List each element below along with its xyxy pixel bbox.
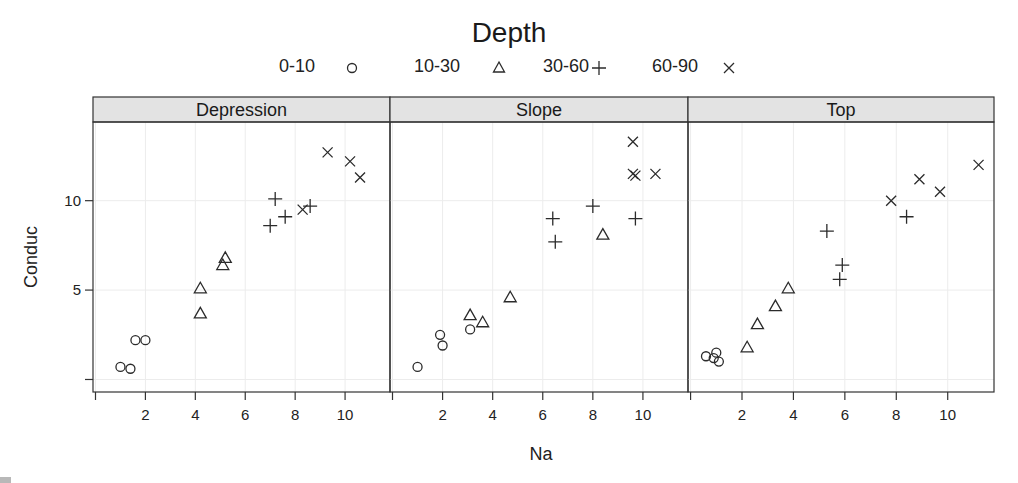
- triangle-point: [477, 316, 489, 327]
- plus-point: [820, 224, 834, 238]
- x-tick-label: 4: [191, 406, 199, 423]
- strip-label: Slope: [516, 100, 562, 120]
- y-tick-label: 5: [73, 281, 81, 298]
- cross-point: [935, 187, 945, 197]
- scatter-plot: Depression246810Slope246810Top246810510N…: [0, 0, 1018, 483]
- plus-point: [546, 212, 560, 226]
- strip-label: Top: [826, 100, 855, 120]
- circle-point: [116, 362, 125, 371]
- x-tick-label: 10: [635, 406, 652, 423]
- x-tick-label: 6: [539, 406, 547, 423]
- x-tick-label: 8: [291, 406, 299, 423]
- x-axis-label: Na: [529, 444, 553, 464]
- triangle-point: [769, 300, 781, 311]
- circle-point: [126, 364, 135, 373]
- circle-point: [131, 336, 140, 345]
- triangle-point: [194, 282, 206, 293]
- panel-slope: Slope246810: [390, 97, 688, 423]
- triangle-point: [597, 229, 609, 240]
- x-tick-label: 10: [939, 406, 956, 423]
- triangle-point: [782, 282, 794, 293]
- triangle-point: [217, 259, 229, 270]
- plus-point: [278, 210, 292, 224]
- plus-point: [263, 219, 277, 233]
- cross-point: [974, 160, 984, 170]
- x-tick-label: 10: [337, 406, 354, 423]
- panel-top: Top246810: [688, 97, 994, 423]
- circle-point: [712, 348, 721, 357]
- y-axis-label: Conduc: [21, 226, 41, 288]
- plus-point: [268, 192, 282, 206]
- x-tick-label: 8: [892, 406, 900, 423]
- plus-point: [835, 258, 849, 272]
- cross-point: [345, 156, 355, 166]
- triangle-point: [741, 341, 753, 352]
- x-tick-label: 2: [738, 406, 746, 423]
- plus-point: [548, 235, 562, 249]
- circle-point: [436, 330, 445, 339]
- x-tick-label: 4: [489, 406, 497, 423]
- cross-point: [323, 147, 333, 157]
- x-tick-label: 2: [141, 406, 149, 423]
- triangle-point: [464, 309, 476, 320]
- cross-point: [298, 205, 308, 215]
- x-tick-label: 6: [241, 406, 249, 423]
- cross-point: [914, 174, 924, 184]
- plus-point: [628, 212, 642, 226]
- y-tick-label: 10: [64, 192, 81, 209]
- cross-point: [628, 137, 638, 147]
- triangle-point: [194, 307, 206, 318]
- circle-point: [466, 325, 475, 334]
- triangle-point: [751, 318, 763, 329]
- strip-label: Depression: [196, 100, 287, 120]
- panel-depression: Depression246810: [93, 97, 390, 423]
- corner-artifact: [0, 477, 11, 483]
- cross-point: [355, 172, 365, 182]
- cross-point: [650, 169, 660, 179]
- x-tick-label: 2: [438, 406, 446, 423]
- x-tick-label: 8: [589, 406, 597, 423]
- circle-point: [413, 362, 422, 371]
- triangle-point: [504, 291, 516, 302]
- x-tick-label: 4: [789, 406, 797, 423]
- plus-point: [900, 210, 914, 224]
- x-tick-label: 6: [841, 406, 849, 423]
